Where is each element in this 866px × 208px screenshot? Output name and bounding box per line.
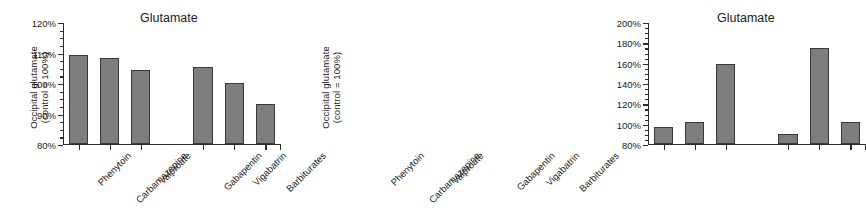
bar-carbamazepine bbox=[100, 58, 119, 143]
y-tick-label: 180% bbox=[617, 38, 641, 49]
y-tick-major bbox=[643, 145, 648, 146]
y-tick-major bbox=[643, 64, 648, 65]
plot-area-right: 200%180%160%140%120%100%80% bbox=[648, 23, 866, 145]
y-axis-line-left bbox=[63, 23, 64, 145]
bar-phenytoin bbox=[654, 127, 673, 143]
y-axis-label-right-line1: Occipital glutamate bbox=[320, 46, 332, 129]
x-axis-label-barbiturates: Barbiturates bbox=[577, 150, 621, 194]
y-tick-minor bbox=[645, 94, 648, 95]
y-tick-label: 140% bbox=[617, 79, 641, 90]
x-axis-label-phenytoin: Phenytoin bbox=[388, 150, 426, 188]
y-tick-minor bbox=[645, 89, 648, 90]
y-tick-major bbox=[643, 23, 648, 24]
y-tick-minor bbox=[60, 76, 63, 77]
y-tick-label: 80% bbox=[37, 140, 56, 151]
x-axis-line-left bbox=[63, 144, 281, 145]
x-axis-labels-left: PhenytoinCarbamazepineValproateGabapenti… bbox=[0, 150, 291, 208]
y-tick-minor bbox=[645, 140, 648, 141]
bar-valproate bbox=[716, 64, 735, 143]
y-tick-minor bbox=[645, 54, 648, 55]
y-tick-minor bbox=[645, 74, 648, 75]
y-tick-minor bbox=[60, 46, 63, 47]
bar-vigabatrin bbox=[810, 48, 829, 144]
y-axis-label-right-line2: (control = 100%) bbox=[331, 46, 343, 129]
y-tick-minor bbox=[60, 92, 63, 93]
y-tick-minor bbox=[60, 38, 63, 39]
bar-phenytoin bbox=[69, 55, 88, 143]
x-tick bbox=[726, 145, 727, 150]
x-tick bbox=[664, 145, 665, 150]
y-tick-minor bbox=[645, 115, 648, 116]
y-tick-label: 100% bbox=[32, 79, 56, 90]
x-axis-labels-right: PhenytoinCarbamazepineValproateGabapenti… bbox=[292, 150, 583, 208]
chart-panel-left: Glutamate Occipital glutamate (control =… bbox=[0, 0, 291, 208]
y-tick-minor bbox=[645, 120, 648, 121]
y-tick-major bbox=[58, 145, 63, 146]
y-tick-major bbox=[643, 43, 648, 44]
y-tick-major bbox=[58, 54, 63, 55]
bar-barbiturates bbox=[841, 122, 860, 143]
y-tick-label: 100% bbox=[617, 119, 641, 130]
y-tick-minor bbox=[60, 130, 63, 131]
y-tick-minor bbox=[645, 135, 648, 136]
y-tick-minor bbox=[60, 69, 63, 70]
y-axis-line-right bbox=[648, 23, 649, 145]
x-axis-line-right bbox=[648, 144, 866, 145]
plot-area-left: 120%110%100%90%80% bbox=[63, 23, 281, 145]
y-tick-minor bbox=[645, 38, 648, 39]
y-tick-label: 110% bbox=[32, 48, 56, 59]
y-tick-minor bbox=[60, 107, 63, 108]
y-tick-minor bbox=[645, 48, 648, 49]
x-tick bbox=[788, 145, 789, 150]
y-tick-minor bbox=[60, 61, 63, 62]
y-tick-minor bbox=[645, 130, 648, 131]
bar-gabapentin bbox=[778, 134, 797, 143]
y-tick-minor bbox=[60, 99, 63, 100]
bar-gabapentin bbox=[193, 67, 212, 143]
y-tick-minor bbox=[60, 122, 63, 123]
y-tick-minor bbox=[645, 33, 648, 34]
y-tick-minor bbox=[60, 137, 63, 138]
y-tick-label: 120% bbox=[32, 18, 56, 29]
y-tick-minor bbox=[645, 69, 648, 70]
y-tick-minor bbox=[645, 79, 648, 80]
bar-vigabatrin bbox=[225, 83, 244, 144]
y-tick-minor bbox=[645, 99, 648, 100]
y-tick-minor bbox=[645, 109, 648, 110]
x-tick bbox=[819, 145, 820, 150]
x-tick bbox=[695, 145, 696, 150]
y-tick-label: 80% bbox=[622, 140, 641, 151]
y-tick-label: 200% bbox=[617, 18, 641, 29]
y-tick-minor bbox=[60, 31, 63, 32]
chart-panel-right: Glutamate Occipital glutamate (control =… bbox=[292, 0, 583, 208]
y-tick-major bbox=[643, 125, 648, 126]
bar-valproate bbox=[131, 70, 150, 143]
x-axis-label-phenytoin: Phenytoin bbox=[95, 150, 133, 188]
y-axis-label-right: Occipital glutamate (control = 100%) bbox=[318, 25, 344, 150]
y-tick-label: 120% bbox=[617, 99, 641, 110]
y-tick-minor bbox=[645, 59, 648, 60]
y-tick-label: 160% bbox=[617, 58, 641, 69]
bar-barbiturates bbox=[256, 104, 275, 144]
y-tick-label: 90% bbox=[37, 109, 56, 120]
y-tick-major bbox=[58, 23, 63, 24]
bar-carbamazepine bbox=[685, 122, 704, 143]
y-tick-major bbox=[643, 104, 648, 105]
y-tick-major bbox=[58, 115, 63, 116]
y-tick-minor bbox=[645, 28, 648, 29]
x-tick bbox=[850, 145, 851, 150]
y-tick-major bbox=[58, 84, 63, 85]
y-tick-major bbox=[643, 84, 648, 85]
